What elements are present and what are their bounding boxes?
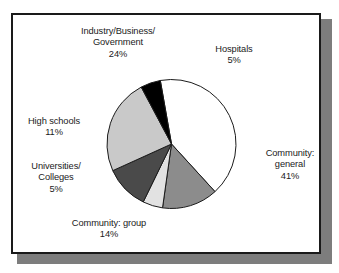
- pie-label-community-group: Community: group 14%: [48, 218, 170, 241]
- pie-label-high-schools: High schools 11%: [8, 116, 100, 139]
- pie-label-industry-business-government: Industry/Business/ Government 24%: [60, 26, 176, 60]
- pie-label-community-general: Community: general 41%: [250, 148, 330, 182]
- pie-label-universities-colleges: Universities/ Colleges 5%: [10, 161, 102, 195]
- pie-chart-figure: Industry/Business/ Government 24% Hospit…: [0, 0, 339, 273]
- pie-label-hospitals: Hospitals 5%: [192, 44, 276, 67]
